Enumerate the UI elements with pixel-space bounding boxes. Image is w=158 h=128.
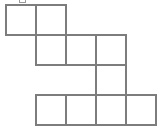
grid-cell: [126, 95, 156, 125]
grid-cell: [36, 95, 66, 125]
grid-cell: [6, 5, 36, 35]
grid-cell: [96, 95, 126, 125]
polyomino-grid: [0, 0, 158, 128]
grid-cell: [96, 65, 126, 95]
diagram-canvas: [0, 0, 158, 128]
grid-cell: [66, 95, 96, 125]
grid-cell: [96, 35, 126, 65]
grid-cell: [36, 35, 66, 65]
grid-cell: [36, 5, 66, 35]
top-edge-tick-mark: [19, 0, 26, 3]
grid-cell: [66, 35, 96, 65]
cells-group: [6, 5, 156, 125]
